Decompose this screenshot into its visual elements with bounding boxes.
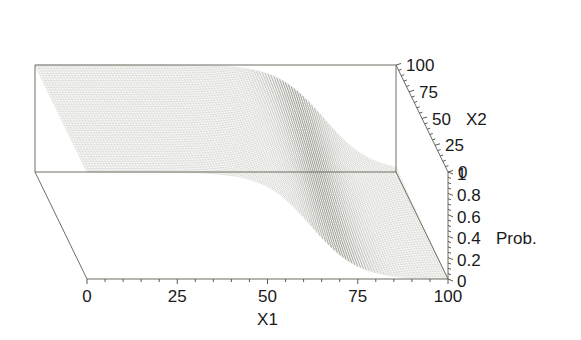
- x1-tick-label-0: 0: [82, 287, 91, 306]
- prob-tick-major: [448, 279, 453, 281]
- x2-tick-minor: [417, 107, 420, 108]
- x2-tick-label-50: 50: [432, 110, 451, 129]
- x2-tick-major: [396, 64, 401, 66]
- x2-tick-minor: [404, 80, 407, 81]
- x1-axis-title: X1: [257, 310, 278, 329]
- x2-tick-minor: [438, 150, 441, 151]
- x2-tick-major: [422, 117, 427, 119]
- prob-tick-major: [448, 258, 453, 260]
- x2-tick-label-25: 25: [445, 136, 464, 155]
- surface-plot-figure: 0255075100X102550X27510000.20.4Prob.0.60…: [0, 0, 581, 340]
- prob-tick-label-1: 1: [457, 165, 466, 184]
- prob-axis-title: Prob.: [496, 229, 537, 248]
- x2-tick-minor: [430, 134, 433, 135]
- x2-axis-title: X2: [466, 110, 487, 129]
- x2-tick-major: [409, 90, 414, 92]
- x2-tick-minor: [406, 85, 409, 86]
- plot-canvas: 0255075100X102550X27510000.20.4Prob.0.60…: [0, 0, 581, 340]
- x2-tick-minor: [440, 155, 443, 156]
- x2-tick-minor: [425, 123, 428, 124]
- prob-tick-major: [448, 236, 453, 238]
- x2-tick-minor: [443, 160, 446, 161]
- x2-tick-minor: [399, 69, 402, 70]
- x2-tick-label-100: 100: [406, 56, 434, 75]
- x2-tick-minor: [414, 101, 417, 102]
- prob-tick-label-0: 0: [457, 272, 466, 291]
- prob-tick-major: [448, 193, 453, 195]
- x1-tick-label-75: 75: [348, 287, 367, 306]
- prob-tick-label-0.4: 0.4: [457, 229, 481, 248]
- x2-tick-minor: [427, 128, 430, 129]
- prob-tick-label-0.6: 0.6: [457, 208, 481, 227]
- x2-tick-minor: [419, 112, 422, 113]
- x1-tick-label-50: 50: [258, 287, 277, 306]
- x2-tick-minor: [401, 75, 404, 76]
- prob-tick-label-0.8: 0.8: [457, 186, 481, 205]
- x2-tick-label-75: 75: [419, 83, 438, 102]
- x2-tick-minor: [412, 96, 415, 97]
- x2-tick-major: [435, 144, 440, 146]
- x2-tick-minor: [432, 139, 435, 140]
- prob-tick-major: [448, 172, 453, 174]
- x2-tick-minor: [445, 166, 448, 167]
- prob-tick-label-0.2: 0.2: [457, 251, 481, 270]
- prob-tick-major: [448, 215, 453, 217]
- x1-tick-label-25: 25: [168, 287, 187, 306]
